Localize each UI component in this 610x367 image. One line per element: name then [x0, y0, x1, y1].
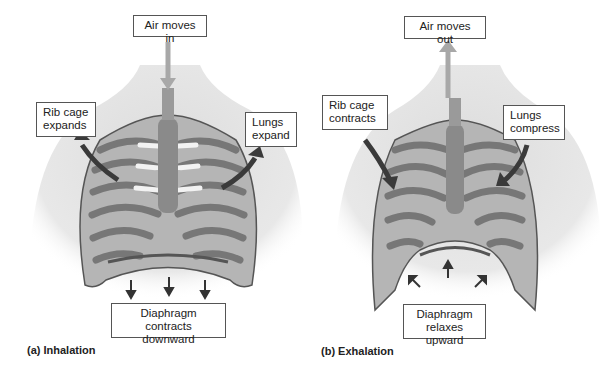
air-moves-out-label: Air moves out — [404, 16, 486, 39]
rib-cage-contracts-label: Rib cagecontracts — [322, 95, 388, 130]
caption-inhalation: (a) Inhalation — [27, 344, 95, 356]
lungs-compress-label: Lungscompress — [503, 105, 565, 140]
diaphragm-relaxes-label: Diaphragmrelaxes upward — [403, 304, 486, 339]
air-moves-in-label: Air moves in — [133, 15, 207, 37]
rib-cage-expands-label: Rib cageexpands — [36, 102, 96, 137]
torso-inhalation — [30, 65, 303, 300]
lungs-expand-label: Lungsexpand — [245, 112, 297, 147]
breathing-illustration — [0, 0, 610, 367]
diaphragm-contracts-label: Diaphragmcontracts downward — [111, 303, 226, 338]
caption-exhalation: (b) Exhalation — [321, 345, 394, 357]
